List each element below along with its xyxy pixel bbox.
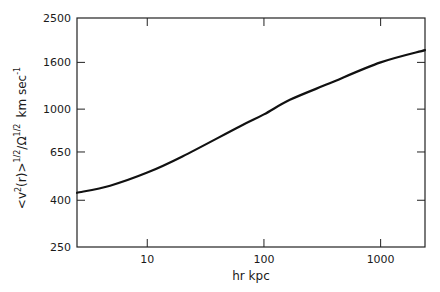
chart: 250400650100016002500 101001000 hr kpc <… [0,0,440,292]
y-tick-label: 650 [50,146,71,159]
x-axis-ticks: 101001000 [140,18,394,266]
x-axis-title: hr kpc [232,269,270,283]
y-tick-label: 2500 [43,12,71,25]
y-tick-label: 400 [50,194,71,207]
plot-frame [77,18,425,247]
x-tick-label: 100 [253,253,274,266]
y-axis-title: <v2(r)>1/2/Ω1/2km sec-1 [13,67,29,209]
x-tick-label: 10 [140,253,154,266]
data-curve [77,50,425,193]
svg-text:<v2(r)>1/2/Ω1/2km sec-1: <v2(r)>1/2/Ω1/2km sec-1 [13,67,29,209]
y-axis-ticks: 250400650100016002500 [43,12,425,254]
y-tick-label: 1000 [43,103,71,116]
y-tick-label: 250 [50,241,71,254]
x-tick-label: 1000 [367,253,395,266]
y-tick-label: 1600 [43,56,71,69]
